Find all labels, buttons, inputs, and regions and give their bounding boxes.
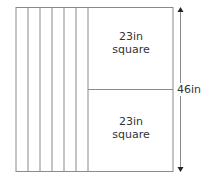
strips <box>28 8 88 172</box>
quilt-layout-diagram: 23in square 23in square 46in <box>0 0 210 178</box>
top-square-label-line2: square <box>112 43 150 56</box>
bottom-square-label-line2: square <box>112 128 150 141</box>
arrow-up-icon <box>178 7 184 12</box>
arrow-down-icon <box>178 167 184 172</box>
bottom-square-label-line1: 23in <box>119 115 143 128</box>
top-square-label-line1: 23in <box>119 30 143 43</box>
height-label: 46in <box>177 83 201 96</box>
